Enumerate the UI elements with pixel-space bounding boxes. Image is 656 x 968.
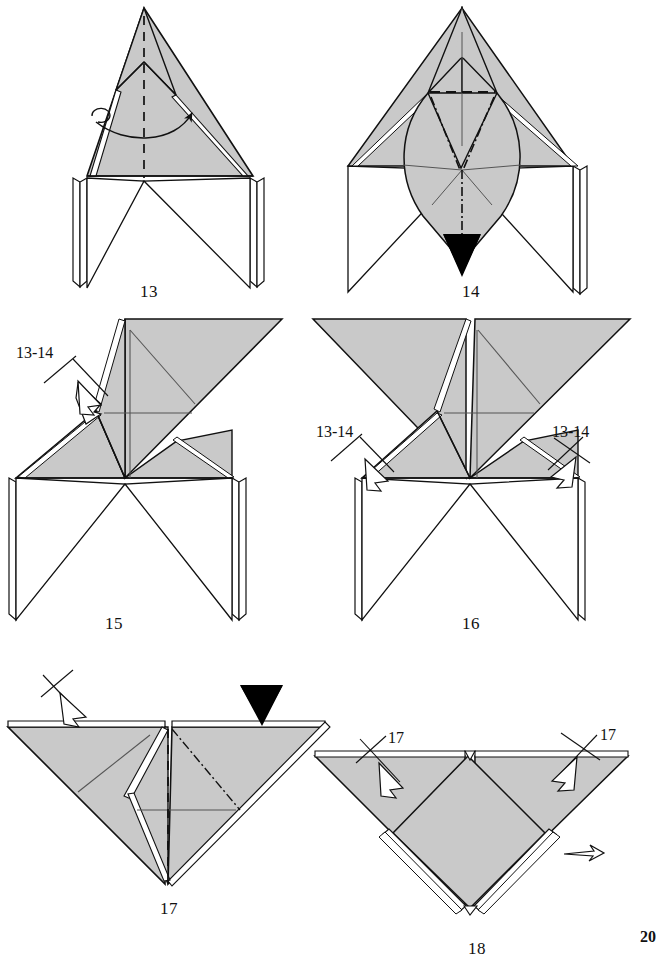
step-label-16: 16 (462, 614, 480, 634)
fig16-lower-left-leg (362, 478, 470, 620)
fig13-lower-left-leg (87, 178, 144, 288)
repeat-callout-fig16-left: 13-14 (316, 423, 353, 441)
figure-16 (313, 319, 630, 620)
fig13-layer-stack-right (250, 178, 264, 287)
fig18-turn-over-arrow (564, 845, 604, 861)
fig18-bottom-notch (464, 906, 477, 915)
figure-17 (8, 670, 330, 886)
step-label-18: 18 (468, 939, 486, 959)
figure-18 (315, 733, 628, 915)
repeat-callout-fig18-left: 17 (388, 729, 404, 747)
fig13-lower-right-leg (144, 178, 250, 288)
step-label-14: 14 (462, 282, 480, 302)
fig18-top-strip-right (475, 751, 628, 757)
fig15-layer-stack-left (9, 478, 16, 620)
step-label-13: 13 (140, 282, 158, 302)
repeat-callout-fig18-right: 17 (600, 726, 616, 744)
fig16-layer-stack-right (578, 478, 585, 620)
repeat-callout-fig15: 13-14 (16, 344, 53, 362)
fig16-layer-stack-left (355, 478, 362, 620)
fig18-top-strip-left (315, 751, 465, 757)
fig15-layer-stack-right (232, 478, 246, 620)
repeat-callout-fig16-right: 13-14 (552, 423, 589, 441)
figure-13 (73, 8, 264, 288)
fig15-lower-right-leg (125, 478, 232, 620)
page-number: 20 (640, 928, 656, 946)
fig13-main-body (87, 8, 253, 176)
fig17-repeat-arrow (41, 670, 86, 727)
figure-14 (348, 8, 587, 294)
step-label-17: 17 (160, 899, 178, 919)
fig17-top-strip-right (172, 721, 325, 727)
fig16-lower-right-leg (470, 478, 578, 620)
step-label-15: 15 (105, 614, 123, 634)
fig14-layer-stack-right (573, 166, 587, 294)
fig13-layer-stack-left (73, 178, 87, 287)
fig17-top-strip-left (8, 721, 165, 727)
fig15-lower-left-leg (16, 478, 125, 620)
figure-15 (9, 319, 282, 620)
